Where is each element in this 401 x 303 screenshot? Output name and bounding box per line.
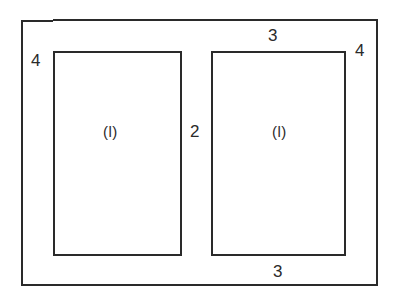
top-rail-part-3: 3 <box>53 19 346 53</box>
part-label: 3 <box>273 263 283 280</box>
part-label: 3 <box>268 27 278 44</box>
bottom-rail-part-3: 3 <box>53 254 346 286</box>
part-label: 4 <box>31 52 41 69</box>
center-stile-part-2: 2 <box>180 51 213 256</box>
part-label: 4 <box>355 42 365 59</box>
right-panel-part-1: (l) <box>211 51 346 256</box>
left-post-part-4: 4 <box>21 20 55 286</box>
frame-diagram: 4 4 3 3 (l) (l) 2 <box>0 0 401 303</box>
part-label: (l) <box>272 124 287 139</box>
left-panel-part-1: (l) <box>53 51 182 256</box>
part-label: (l) <box>103 124 118 139</box>
right-post-part-4: 4 <box>344 19 378 286</box>
part-label: 2 <box>190 123 200 140</box>
